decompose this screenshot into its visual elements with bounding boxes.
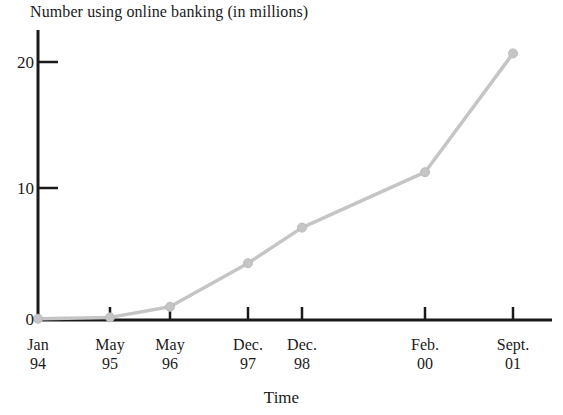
x-axis-label-year: 96 bbox=[155, 354, 184, 373]
x-axis-label-month: Dec. bbox=[287, 335, 317, 354]
x-axis-label-year: 01 bbox=[497, 354, 529, 373]
data-point-sept-01 bbox=[509, 49, 518, 58]
x-axis-label-year: 98 bbox=[287, 354, 317, 373]
x-axis-label-month: Feb. bbox=[411, 335, 439, 354]
x-axis-label-year: 00 bbox=[411, 354, 439, 373]
x-axis-label-may-95: May 95 bbox=[95, 335, 124, 373]
x-axis-label-month: Sept. bbox=[497, 335, 529, 354]
data-point-dec-98 bbox=[298, 223, 307, 232]
x-axis-label-may-96: May 96 bbox=[155, 335, 184, 373]
y-axis-label-20: 20 bbox=[0, 54, 34, 71]
y-axis-label-0: 0 bbox=[0, 311, 34, 328]
x-axis-label-dec-97: Dec. 97 bbox=[233, 335, 263, 373]
data-series-line bbox=[38, 53, 513, 318]
data-point-feb-00 bbox=[421, 168, 430, 177]
x-axis-label-sept-01: Sept. 01 bbox=[497, 335, 529, 373]
data-point-may-96 bbox=[166, 302, 175, 311]
x-axis-label-jan-94: Jan 94 bbox=[27, 335, 48, 373]
x-axis-label-year: 94 bbox=[27, 354, 48, 373]
x-axis-label-month: May bbox=[155, 335, 184, 354]
x-axis-label-year: 95 bbox=[95, 354, 124, 373]
y-axis-label-10: 10 bbox=[0, 180, 34, 197]
x-axis-title: Time bbox=[0, 388, 563, 408]
chart-plot-area bbox=[0, 0, 563, 415]
x-axis-label-dec-98: Dec. 98 bbox=[287, 335, 317, 373]
data-point-markers bbox=[34, 49, 518, 323]
x-axis-label-month: Dec. bbox=[233, 335, 263, 354]
x-axis-label-year: 97 bbox=[233, 354, 263, 373]
data-point-jan-94 bbox=[34, 314, 43, 323]
x-axis-label-feb-00: Feb. 00 bbox=[411, 335, 439, 373]
chart-container: Number using online banking (in millions… bbox=[0, 0, 563, 415]
x-axis-label-month: May bbox=[95, 335, 124, 354]
data-point-dec-97 bbox=[244, 259, 253, 268]
data-point-may-95 bbox=[106, 313, 115, 322]
x-axis-label-month: Jan bbox=[27, 335, 48, 354]
